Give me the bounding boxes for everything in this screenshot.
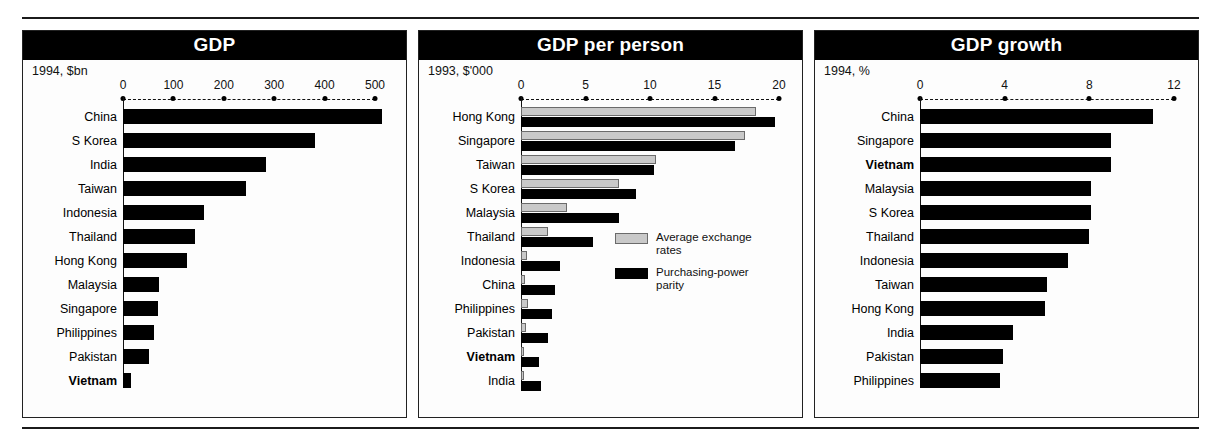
chart-panel-group: GDP 1994, $bn 0100200300400500 ChinaS Ko… (0, 30, 1221, 418)
panel-gdp-per-person-tick-dot (777, 96, 782, 101)
chart-row: Thailand (815, 225, 1198, 249)
row-label-malaysia: Malaysia (23, 279, 117, 292)
chart-row: Indonesia (815, 249, 1198, 273)
row-label-malaysia: Malaysia (419, 207, 515, 220)
bar-pakistan (123, 349, 149, 364)
bar-singapore (123, 301, 158, 316)
panel-gdp-tick-dot (322, 96, 327, 101)
row-label-indonesia: Indonesia (23, 207, 117, 220)
bar-philippines-ppp (521, 309, 552, 318)
panel-gdp-tick-label: 100 (163, 79, 183, 91)
bar-philippines-exchange (521, 299, 528, 308)
panel-gdp: GDP 1994, $bn 0100200300400500 ChinaS Ko… (22, 30, 407, 418)
chart-row: Pakistan (419, 321, 802, 345)
row-label-indonesia: Indonesia (815, 255, 914, 268)
chart-row: S Korea (23, 129, 406, 153)
bar-malaysia (123, 277, 159, 292)
top-divider-rule (22, 17, 1199, 19)
panel-gdp-per-person-plot: 05101520 Hong KongSingaporeTaiwanS Korea… (419, 79, 802, 417)
panel-gdp-growth-title: GDP growth (815, 31, 1198, 60)
legend-label-ppp: Purchasing-power parity (656, 266, 749, 292)
chart-row: China (23, 105, 406, 129)
panel-gdp-per-person-title: GDP per person (419, 31, 802, 60)
bar-vietnam (123, 373, 131, 388)
bar-hong-kong-ppp (521, 117, 775, 126)
row-label-china: China (815, 111, 914, 124)
panel-gdp-tick-dot (171, 96, 176, 101)
panel-gdp-per-person-tick-label: 15 (708, 79, 721, 91)
chart-row: Vietnam (23, 369, 406, 393)
panel-gdp-axis: 0100200300400500 (23, 79, 406, 105)
row-label-thailand: Thailand (419, 231, 515, 244)
panel-gdp-growth-axis-line (920, 99, 1174, 100)
row-label-philippines: Philippines (815, 375, 914, 388)
bar-hong-kong (920, 301, 1045, 316)
panel-gdp-per-person-tick-label: 5 (582, 79, 589, 91)
chart-row: Malaysia (419, 201, 802, 225)
bar-pakistan (920, 349, 1003, 364)
bar-indonesia-exchange (521, 251, 527, 260)
panel-gdp-growth-rows: ChinaSingaporeVietnamMalaysiaS KoreaThai… (815, 105, 1198, 413)
chart-row: China (815, 105, 1198, 129)
row-label-hong-kong: Hong Kong (23, 255, 117, 268)
bar-indonesia-ppp (521, 261, 560, 270)
bar-malaysia-exchange (521, 203, 567, 212)
row-label-malaysia: Malaysia (815, 183, 914, 196)
panel-gdp-tick-label: 200 (214, 79, 234, 91)
panel-gdp-growth-units: 1994, % (815, 60, 1198, 79)
panel-gdp-tick-dot (373, 96, 378, 101)
panel-gdp-tick-label: 0 (120, 79, 127, 91)
panel-gdp-per-person-tick-label: 20 (772, 79, 785, 91)
row-label-taiwan: Taiwan (23, 183, 117, 196)
row-label-pakistan: Pakistan (815, 351, 914, 364)
panel-gdp-growth: GDP growth 1994, % 04812 ChinaSingaporeV… (814, 30, 1199, 418)
chart-row: Philippines (815, 369, 1198, 393)
panel-gdp-tick-label: 300 (264, 79, 284, 91)
chart-row: Hong Kong (23, 249, 406, 273)
row-label-singapore: Singapore (815, 135, 914, 148)
panel-gdp-plot: 0100200300400500 ChinaS KoreaIndiaTaiwan… (23, 79, 406, 417)
panel-gdp-tick-label: 500 (365, 79, 385, 91)
bar-india (123, 157, 266, 172)
bar-thailand-ppp (521, 237, 593, 246)
panel-gdp-tick-dot (221, 96, 226, 101)
legend-label-exchange-rates: Average exchange rates (656, 231, 752, 257)
row-label-philippines: Philippines (419, 303, 515, 316)
chart-row: Thailand (23, 225, 406, 249)
panel-gdp-per-person-axis: 05101520 (419, 79, 802, 105)
row-label-s-korea: S Korea (419, 183, 515, 196)
bar-taiwan (920, 277, 1047, 292)
panel-gdp-per-person-tick-dot (712, 96, 717, 101)
panel-gdp-tick-label: 400 (315, 79, 335, 91)
bar-philippines (920, 373, 1000, 388)
panel-gdp-per-person: GDP per person 1993, $'000 05101520 Hong… (418, 30, 803, 418)
row-label-hong-kong: Hong Kong (815, 303, 914, 316)
panel-gdp-title: GDP (23, 31, 406, 60)
bar-thailand-exchange (521, 227, 548, 236)
bar-india-exchange (521, 371, 524, 380)
row-label-vietnam: Vietnam (815, 159, 914, 172)
chart-row: Malaysia (815, 177, 1198, 201)
bar-malaysia (920, 181, 1091, 196)
chart-row: Hong Kong (815, 297, 1198, 321)
bar-china-exchange (521, 275, 525, 284)
row-label-thailand: Thailand (815, 231, 914, 244)
panel-gdp-rows: ChinaS KoreaIndiaTaiwanIndonesiaThailand… (23, 105, 406, 413)
chart-row: Philippines (419, 297, 802, 321)
panel-gdp-axis-line (123, 99, 375, 100)
panel-gdp-growth-tick-label: 12 (1167, 79, 1180, 91)
panel-gdp-growth-tick-label: 8 (1086, 79, 1093, 91)
panel-gdp-growth-plot: 04812 ChinaSingaporeVietnamMalaysiaS Kor… (815, 79, 1198, 417)
bar-indonesia (123, 205, 204, 220)
row-label-philippines: Philippines (23, 327, 117, 340)
row-label-indonesia: Indonesia (419, 255, 515, 268)
row-label-india: India (23, 159, 117, 172)
panel-gdp-growth-tick-dot (1087, 96, 1092, 101)
bar-india (920, 325, 1013, 340)
bottom-divider-rule (22, 427, 1199, 429)
row-label-vietnam: Vietnam (23, 375, 117, 388)
bar-s-korea (123, 133, 315, 148)
chart-row: Pakistan (23, 345, 406, 369)
bar-s-korea-ppp (521, 189, 636, 198)
chart-row: Pakistan (815, 345, 1198, 369)
